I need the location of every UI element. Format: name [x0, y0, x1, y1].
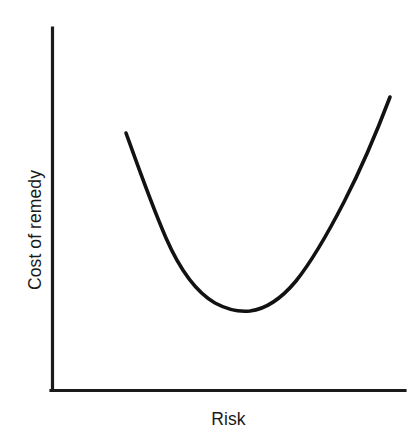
- chart-plot-area: [0, 0, 420, 444]
- x-axis-label: Risk: [52, 408, 405, 430]
- chart-figure: Cost of remedy Risk: [0, 0, 420, 444]
- y-axis-label: Cost of remedy: [22, 70, 48, 290]
- chart-background: [0, 0, 420, 444]
